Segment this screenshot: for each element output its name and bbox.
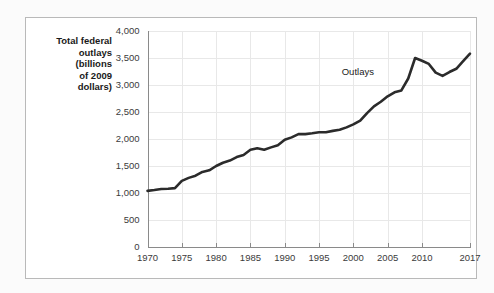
series-line-outlays [148, 54, 471, 191]
y-axis-tick-label: 4,000 [116, 25, 140, 36]
x-axis-tick-label: 1985 [240, 252, 261, 263]
x-axis-tick-label: 2000 [343, 252, 364, 263]
x-axis-tick-label: 2017 [459, 252, 480, 263]
y-axis-tick-label: 3,500 [116, 52, 140, 63]
y-axis-tick-label: 0 [134, 241, 139, 252]
chart-annotations: Outlays [342, 66, 374, 77]
data-series [148, 54, 471, 191]
figure-root: Total federal outlays (billions of 2009 … [0, 0, 494, 293]
x-axis-tick-label: 1970 [137, 252, 158, 263]
y-axis-tick-label: 3,000 [116, 79, 140, 90]
series-label-outlays: Outlays [342, 66, 374, 77]
x-axis-tick-label: 1995 [308, 252, 329, 263]
y-axis-tick-label: 1,000 [116, 187, 140, 198]
x-axis-tick-label: 2010 [411, 252, 432, 263]
x-axis-tick-label: 2005 [377, 252, 398, 263]
x-axis-tick-labels: 1970197519801985199019952000200520102017 [137, 252, 481, 263]
y-axis-tick-label: 1,500 [116, 160, 140, 171]
x-axis-tick-label: 1975 [171, 252, 192, 263]
y-axis-tick-label: 2,500 [116, 106, 140, 117]
x-axis-tick-label: 1990 [274, 252, 295, 263]
gridlines [148, 31, 471, 247]
y-axis-tick-label: 2,000 [116, 133, 140, 144]
x-axis-tick-label: 1980 [206, 252, 227, 263]
y-axis-tick-labels: 05001,0001,5002,0002,5003,0003,5004,000 [116, 25, 140, 252]
line-chart: 05001,0001,5002,0002,5003,0003,5004,000 … [0, 0, 494, 293]
y-axis-tick-label: 500 [124, 214, 140, 225]
